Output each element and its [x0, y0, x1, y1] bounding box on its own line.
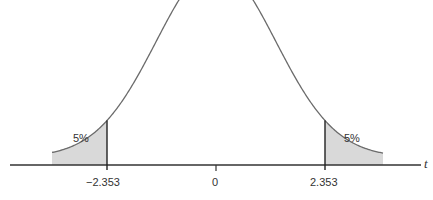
- tick-label-right: 2.353: [310, 176, 338, 188]
- tick-label-center: 0: [212, 176, 218, 188]
- left-tail-label: 5%: [73, 132, 89, 144]
- t-distribution-plot: [0, 0, 433, 200]
- tick-label-left: −2.353: [86, 176, 120, 188]
- right-tail-label: 5%: [344, 132, 360, 144]
- axis-variable-label: t: [424, 156, 428, 172]
